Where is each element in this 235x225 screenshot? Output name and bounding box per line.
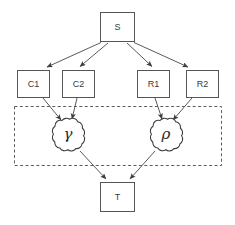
edge-r2-to-rho [173,98,192,120]
node-target-t[interactable]: T [101,183,135,212]
node-r1[interactable]: R1 [138,71,170,98]
node-r1-label: R1 [148,79,160,89]
node-r2-label: R2 [197,79,209,89]
node-gamma-label: γ [64,125,73,143]
node-c1[interactable]: C1 [18,71,50,98]
edge-group-source-outputs [47,43,188,68]
edge-s-to-c1 [47,43,101,68]
diagram-svg: S C1 C2 R1 R2 γ ρ [0,0,235,225]
diagram-canvas: S C1 C2 R1 R2 γ ρ [0,0,235,225]
node-r2[interactable]: R2 [187,71,219,98]
edge-s-to-r1 [127,43,152,67]
edge-group-cloud-inputs [43,98,192,120]
node-source-s-label: S [114,22,120,32]
edge-c2-to-gamma [72,98,77,119]
node-c2-label: C2 [73,79,85,89]
node-c2[interactable]: C2 [63,71,95,98]
dashed-group-region [15,107,222,166]
node-source-s[interactable]: S [101,13,135,42]
node-rho-label: ρ [161,125,171,143]
edge-s-to-r2 [134,43,188,68]
edge-s-to-c2 [80,43,108,67]
edge-c1-to-gamma [43,98,61,120]
node-gamma-cloud[interactable]: γ [52,118,84,151]
edge-r1-to-rho [155,98,162,119]
node-rho-cloud[interactable]: ρ [150,118,182,151]
node-c1-label: C1 [28,79,40,89]
node-target-t-label: T [115,192,121,202]
